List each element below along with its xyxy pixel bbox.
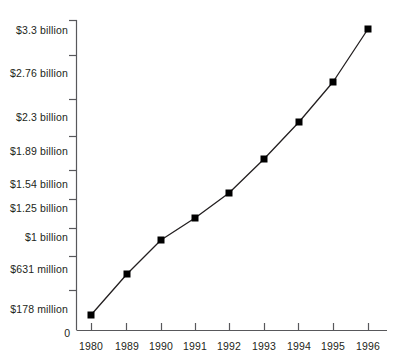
data-point-marker (365, 26, 372, 33)
plot-area (0, 0, 395, 359)
data-point-marker (226, 190, 233, 197)
data-point-marker (296, 119, 303, 126)
data-point-marker (192, 215, 199, 222)
data-point-marker (261, 156, 268, 163)
y-axis-ticks (69, 21, 77, 291)
data-line (91, 29, 368, 315)
data-point-marker (88, 312, 95, 319)
data-point-marker (330, 79, 337, 86)
data-markers (88, 26, 372, 319)
data-point-marker (158, 237, 165, 244)
x-axis-ticks (92, 323, 369, 330)
line-chart: $3.3 billion $2.76 billion $2.3 billion … (0, 0, 395, 359)
data-point-marker (124, 271, 131, 278)
